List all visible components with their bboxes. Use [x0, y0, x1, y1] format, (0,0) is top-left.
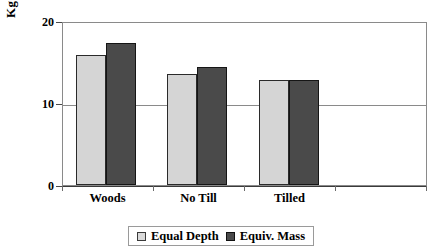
y-axis-title: Kg OC·m-3 — [2, 0, 18, 46]
bar — [197, 67, 227, 185]
legend-item-equiv-mass: Equiv. Mass — [226, 229, 305, 244]
x-axis-label-woods: Woods — [62, 191, 153, 206]
bar-chart: Kg OC·m-3 20 10 0 Woods No Till Tilled E… — [0, 0, 440, 252]
bar-group — [63, 23, 154, 185]
legend-swatch-equal-depth-icon — [137, 232, 146, 241]
legend-item-equal-depth: Equal Depth — [137, 229, 219, 244]
legend-label-equiv-mass: Equiv. Mass — [240, 229, 305, 244]
bar — [289, 80, 319, 185]
bar — [259, 80, 289, 185]
bars-layer — [63, 23, 426, 185]
y-tick-label-20: 20 — [32, 15, 54, 30]
bar — [106, 43, 136, 185]
bar — [167, 74, 197, 185]
plot-inner — [63, 23, 426, 185]
y-tick-label-10: 10 — [32, 97, 54, 112]
bar-group — [246, 23, 337, 185]
bar-group — [154, 23, 245, 185]
chart-legend: Equal Depth Equiv. Mass — [128, 226, 314, 246]
x-axis-label-no-till: No Till — [153, 191, 244, 206]
bar-group — [337, 23, 428, 185]
plot-area — [62, 22, 427, 186]
legend-label-equal-depth: Equal Depth — [151, 229, 219, 244]
x-tick-4 — [426, 186, 427, 191]
legend-swatch-equiv-mass-icon — [226, 232, 235, 241]
y-tick-label-0: 0 — [32, 179, 54, 194]
x-tick-3 — [335, 186, 336, 191]
bar — [76, 55, 106, 185]
x-axis-label-tilled: Tilled — [244, 191, 335, 206]
y-axis-title-text: Kg OC·m — [3, 0, 18, 18]
